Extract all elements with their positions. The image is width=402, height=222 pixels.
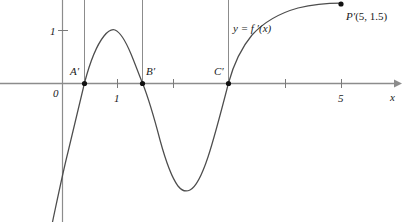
label-p-prime-name: P′ xyxy=(346,10,355,22)
label-b-prime: B′ xyxy=(146,66,155,77)
origin-label: 0 xyxy=(53,88,59,99)
point-p-prime[interactable] xyxy=(338,1,343,6)
x-axis-arrow-icon xyxy=(394,80,402,88)
vertical-gridlines xyxy=(85,0,229,83)
label-p-prime: P′(5, 1.5) xyxy=(346,11,387,22)
x-axis-tick-label-1: 1 xyxy=(114,93,120,104)
point-a-prime[interactable] xyxy=(82,81,87,86)
label-p-prime-coords: (5, 1.5) xyxy=(355,10,387,22)
x-axis-label: x xyxy=(390,92,395,103)
plot-canvas xyxy=(0,0,402,222)
label-c-prime: C′ xyxy=(214,66,224,77)
y-axis-tick-label-1: 1 xyxy=(50,26,56,37)
point-c-prime[interactable] xyxy=(226,81,231,86)
point-b-prime[interactable] xyxy=(140,81,145,86)
fprime-curve xyxy=(51,3,341,222)
x-axis-tick-label-5: 5 xyxy=(338,93,344,104)
label-a-prime: A′ xyxy=(70,66,79,77)
marked-points xyxy=(82,1,344,86)
graph-figure: 1 0 1 5 x A′ B′ C′ y = f ′(x) P′(5, 1.5) xyxy=(0,0,402,222)
curve-equation-label: y = f ′(x) xyxy=(233,23,271,34)
